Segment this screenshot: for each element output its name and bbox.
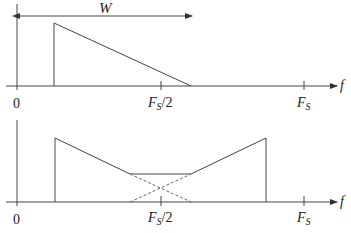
bottom-spectrum <box>55 138 266 202</box>
top-spectrum <box>54 23 191 86</box>
bottom-x-axis-label: f <box>340 195 344 209</box>
bottom-tick-label-full: FS <box>297 211 311 225</box>
top-tick-label-half: FS/2 <box>148 96 172 110</box>
top-tick-label-zero: 0 <box>13 97 20 111</box>
spectrum-diagram <box>0 0 351 233</box>
width-label: W <box>99 1 112 16</box>
bottom-panel <box>6 120 337 206</box>
bottom-tick-label-zero: 0 <box>13 213 20 227</box>
bottom-tick-label-half: FS/2 <box>148 211 172 225</box>
top-tick-label-full: FS <box>297 96 311 110</box>
top-x-axis-label: f <box>340 79 344 93</box>
top-panel <box>6 4 337 90</box>
